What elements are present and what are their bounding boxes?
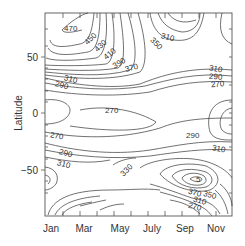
svg-text:270: 270 [49, 130, 64, 141]
contour-labels: 470 450 430 410 390 370 350 310 310 290 … [49, 24, 226, 213]
svg-text:310: 310 [56, 158, 72, 170]
x-tick-jan: Jan [43, 223, 59, 234]
svg-text:330: 330 [119, 162, 135, 178]
svg-text:270: 270 [211, 79, 226, 89]
y-axis-label: Latitude [13, 95, 24, 131]
x-tick-labels: Jan Mar May July Sep Nov [43, 223, 225, 234]
y-tick-50: 50 [27, 52, 39, 63]
y-tick-neg50: −50 [21, 165, 38, 176]
contour-chart: 470 450 430 410 390 370 350 310 310 290 … [0, 0, 245, 246]
y-tick-0: 0 [32, 108, 38, 119]
plot-frame [45, 13, 232, 216]
svg-text:290: 290 [186, 131, 200, 140]
svg-text:470: 470 [64, 24, 78, 33]
x-tick-july: July [143, 223, 161, 234]
svg-text:5: 5 [196, 175, 201, 184]
contour-lines [45, 13, 232, 216]
x-tick-sep: Sep [176, 223, 194, 234]
x-tick-may: May [111, 223, 130, 234]
x-tick-nov: Nov [207, 223, 225, 234]
svg-text:270: 270 [105, 106, 119, 115]
svg-text:310: 310 [211, 143, 226, 154]
svg-text:310: 310 [160, 31, 176, 43]
x-tick-mar: Mar [75, 223, 93, 234]
